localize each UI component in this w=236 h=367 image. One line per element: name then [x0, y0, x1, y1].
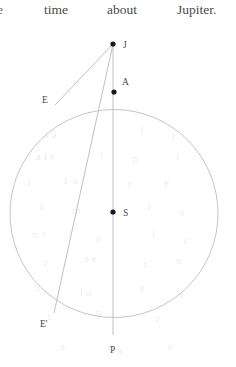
segment-sightline-to-E-prime — [54, 44, 113, 313]
figure-point-dots — [110, 41, 116, 214]
figure-segments — [54, 44, 113, 335]
figure-point-labels: JAESE'P — [40, 40, 129, 355]
point-label-s: S — [123, 208, 128, 218]
point-label-j: J — [123, 40, 127, 50]
point-dot-a — [111, 89, 116, 94]
point-dot-s — [110, 209, 115, 214]
point-label-p: P — [110, 345, 115, 355]
point-label-a: A — [122, 77, 129, 87]
point-label-ep: E' — [40, 319, 48, 329]
segment-sightline-to-E — [55, 44, 113, 105]
point-label-e: E — [42, 95, 48, 105]
geometry-figure: JAESE'P — [0, 0, 236, 367]
point-dot-j — [110, 41, 115, 46]
figure-svg: JAESE'P — [0, 0, 236, 367]
